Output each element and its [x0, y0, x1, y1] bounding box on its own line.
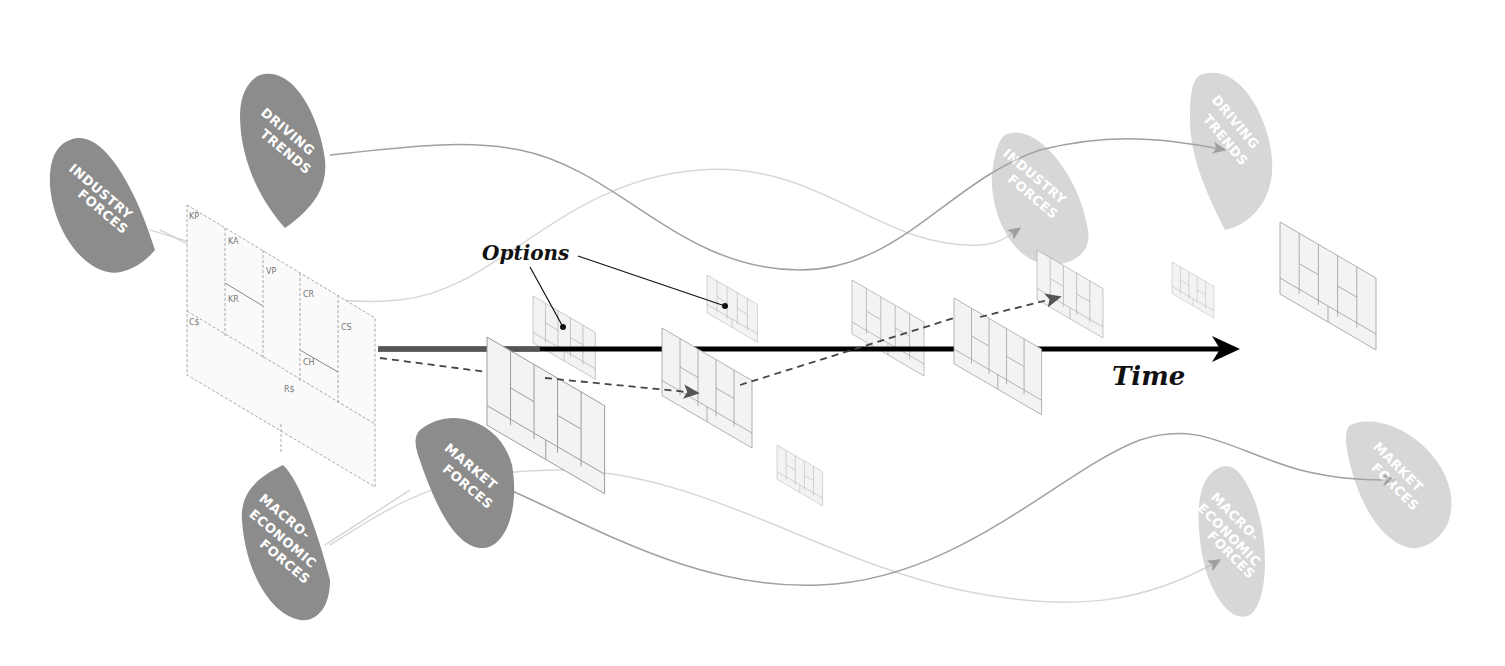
future-canvas [1280, 222, 1376, 350]
block-label-ch: CH [303, 358, 315, 367]
force-blob-driving-future: DRIVING TRENDS [1190, 73, 1272, 230]
block-label-revenue-streams: R$ [284, 385, 295, 394]
force-blob-industry-future: INDUSTRY FORCES [992, 132, 1089, 265]
timeline-canvas-2 [662, 328, 752, 448]
timeline-canvas-3 [954, 298, 1042, 415]
force-blob-driving: DRIVING TRENDS [240, 74, 325, 228]
block-label-kr: KR [228, 295, 239, 304]
force-blob-market: MARKET FORCES [416, 418, 515, 548]
block-label-cost-structure: C$ [189, 318, 200, 327]
option-canvas-3 [852, 280, 924, 376]
option-canvas-2 [707, 275, 757, 342]
block-label-ka: KA [228, 237, 239, 246]
options-annotation: Options [482, 241, 728, 330]
option-canvas-4 [1037, 250, 1103, 338]
block-label-kp: KP [189, 212, 199, 221]
force-blob-industry: INDUSTRY FORCES [50, 138, 155, 273]
business-model-environment-diagram: INDUSTRY FORCES DRIVING TRENDS MACRO- EC… [0, 0, 1505, 666]
options-label: Options [482, 241, 569, 265]
force-blob-macro-future: MACRO- ECONOMIC FORCES [1195, 466, 1265, 617]
force-blob-macro: MACRO- ECONOMIC FORCES [242, 465, 330, 620]
block-label-cr: CR [303, 290, 315, 299]
option-canvas-6 [777, 445, 823, 506]
block-label-vp: VP [266, 267, 276, 276]
option-canvas-1 [533, 296, 595, 379]
business-model-canvas-current: KP KA VP CR CS KR CH C$ R$ [187, 205, 375, 487]
time-label: Time [1112, 361, 1185, 391]
option-canvas-5 [1172, 262, 1214, 318]
force-blob-market-future: MARKET FORCES [1346, 421, 1451, 548]
block-label-cs: CS [341, 323, 352, 332]
